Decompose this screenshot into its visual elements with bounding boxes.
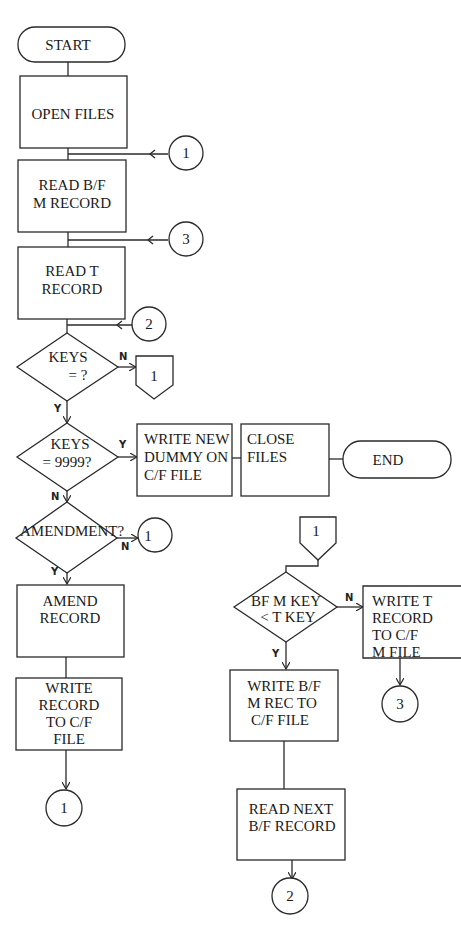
connector-2-bottom: 2	[272, 878, 308, 914]
offpage-connector-1-right: 1	[300, 517, 336, 560]
start-terminator: START	[18, 27, 125, 62]
close-files-line1: CLOSE	[247, 431, 295, 447]
branch-label-yes: Y	[53, 403, 62, 414]
connector-number: 1	[150, 368, 158, 384]
write-t-line1: WRITE T	[372, 593, 432, 609]
end-label: END	[373, 452, 404, 468]
write-record-line4: FILE	[53, 731, 85, 747]
branch-label-no: N	[121, 541, 129, 552]
amendment-decision: AMENDMENT?	[16, 502, 124, 573]
end-terminator: END	[343, 441, 451, 478]
close-files-process: CLOSE FILES	[241, 424, 329, 496]
write-dummy-process: WRITE NEW DUMMY ON C/F FILE	[137, 424, 232, 496]
amendment-label: AMENDMENT?	[20, 523, 124, 539]
write-t-line4: M FILE	[372, 644, 421, 660]
branch-label-no: N	[345, 592, 353, 603]
connector-number: 1	[312, 523, 320, 539]
branch-label-no: N	[51, 491, 59, 502]
write-dummy-line1: WRITE NEW	[144, 431, 230, 447]
read-t-label-line1: READ T	[45, 263, 98, 279]
bf-key-less-than-decision: BF M KEY < T KEY	[234, 572, 337, 642]
keys-equal-decision: KEYS = ?	[17, 333, 118, 401]
write-record-line1: WRITE	[45, 680, 92, 696]
keys-eq-line1: KEYS	[48, 349, 87, 365]
connector-number: 1	[60, 800, 68, 816]
branch-label-no: N	[119, 351, 127, 362]
branch-label-yes: Y	[271, 648, 280, 659]
write-record-line3: TO C/F	[46, 714, 92, 730]
connector-number: 1	[182, 145, 190, 161]
connector-number: 3	[396, 696, 404, 712]
write-t-line2: RECORD	[372, 610, 433, 626]
write-bf-line3: C/F FILE	[251, 712, 309, 728]
keys-9999-decision: KEYS = 9999?	[17, 423, 118, 491]
write-bf-line2: M REC TO	[247, 695, 317, 711]
keys-9999-line1: KEYS	[50, 436, 89, 452]
keys-eq-line2: = ?	[69, 367, 88, 383]
branch-label-yes: Y	[50, 566, 59, 577]
connector-number: 2	[145, 316, 153, 332]
connector-1-bottom: 1	[46, 790, 82, 826]
read-bf-m-record-process: READ B/F M RECORD	[18, 160, 126, 232]
connector-1-amendment: 1	[138, 518, 172, 552]
offpage-connector-1-keys: 1	[136, 356, 173, 399]
write-record-process: WRITE RECORD TO C/F FILE	[16, 678, 122, 750]
connector-3-right: 3	[382, 686, 418, 722]
read-next-bf-record-process: READ NEXT B/F RECORD	[237, 789, 345, 860]
read-t-record-process: READ T RECORD	[18, 247, 125, 319]
branch-label-yes: Y	[118, 439, 127, 450]
start-label: START	[45, 37, 90, 53]
write-dummy-line3: C/F FILE	[144, 467, 202, 483]
read-bf-label-line1: READ B/F	[38, 177, 105, 193]
amend-record-process: AMEND RECORD	[17, 585, 124, 657]
write-record-line2: RECORD	[39, 697, 100, 713]
read-t-label-line2: RECORD	[42, 281, 103, 297]
open-files-process: OPEN FILES	[20, 76, 127, 148]
keys-9999-line2: = 9999?	[43, 454, 92, 470]
write-t-line3: TO C/F	[372, 627, 418, 643]
open-files-label: OPEN FILES	[32, 106, 115, 122]
write-bf-line1: WRITE B/F	[247, 678, 321, 694]
read-bf-label-line2: M RECORD	[33, 195, 111, 211]
amend-record-line1: AMEND	[43, 593, 98, 609]
connector-1-top: 1	[169, 136, 203, 170]
write-bf-record-process: WRITE B/F M REC TO C/F FILE	[230, 670, 338, 741]
read-next-line2: B/F RECORD	[248, 818, 335, 834]
bf-key-line2: < T KEY	[260, 609, 316, 625]
connector-3-top: 3	[169, 222, 203, 256]
close-files-line2: FILES	[247, 449, 287, 465]
write-t-record-process: WRITE T RECORD TO C/F M FILE	[363, 586, 461, 660]
amend-record-line2: RECORD	[40, 610, 101, 626]
connector-number: 1	[144, 528, 152, 544]
read-next-line1: READ NEXT	[249, 801, 334, 817]
bf-key-line1: BF M KEY	[251, 593, 321, 609]
connector-number: 2	[286, 888, 294, 904]
connector-2-top: 2	[132, 307, 166, 341]
flow-line	[286, 560, 318, 572]
write-dummy-line2: DUMMY ON	[144, 449, 228, 465]
connector-number: 3	[182, 231, 190, 247]
